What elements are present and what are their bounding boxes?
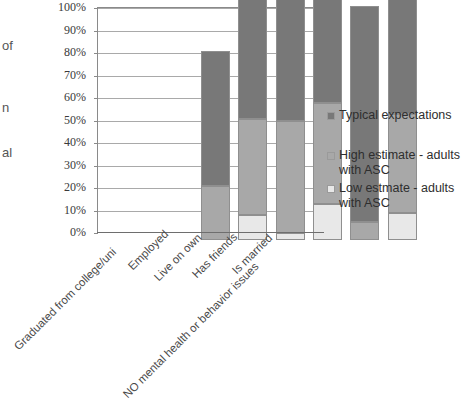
stacked-bar-chart: 0%10%20%30%40%50%60%70%80%90%100% Gradua… [0, 0, 467, 409]
legend-item: High estimate - adults with ASC [327, 148, 464, 178]
legend-label: Low estmate - adults with ASC [339, 181, 464, 211]
legend-item: Low estmate - adults with ASC [327, 181, 464, 211]
legend-swatch-icon [327, 185, 335, 193]
legend-label: High estimate - adults with ASC [339, 148, 464, 178]
x-axis-tick-label: NO mental health or behavior issues [121, 260, 261, 400]
legend-item: Typical expectations [327, 108, 452, 123]
x-axis-tick-label: Graduated from college/uni [12, 246, 119, 353]
legend-swatch-icon [327, 112, 335, 120]
legend-label: Typical expectations [339, 108, 452, 123]
legend-swatch-icon [327, 152, 335, 160]
